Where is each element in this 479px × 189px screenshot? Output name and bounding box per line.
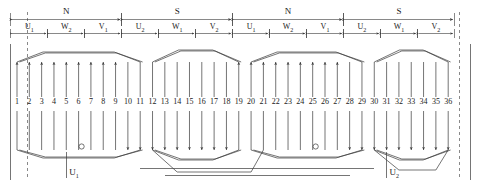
slot-conductor-layer <box>17 62 448 150</box>
slot-number-31: 31 <box>383 98 391 106</box>
phase-return-connector <box>153 150 264 172</box>
slot-number-26: 26 <box>321 98 329 106</box>
slot-number-5: 5 <box>64 98 68 106</box>
phase-band-label-7: U1 <box>247 23 256 33</box>
pole-label-2: S <box>175 7 180 16</box>
slot-number-2: 2 <box>27 98 31 106</box>
slot-number-12: 12 <box>149 98 157 106</box>
coil-overhang-bottom <box>377 150 451 159</box>
pole-label-3: N <box>285 7 292 16</box>
slot-number-25: 25 <box>309 98 317 106</box>
slot-number-4: 4 <box>52 98 56 106</box>
phase-band-label-5: W1 <box>172 23 183 33</box>
slot-number-10: 10 <box>124 98 132 106</box>
slot-number-27: 27 <box>333 98 341 106</box>
slot-number-24: 24 <box>296 98 304 106</box>
coil-overhang-bottom <box>155 150 241 159</box>
slot-number-30: 30 <box>370 98 378 106</box>
slot-number-34: 34 <box>420 98 428 106</box>
slot-number-17: 17 <box>210 98 218 106</box>
slot-number-29: 29 <box>358 98 366 106</box>
slot-number-11: 11 <box>136 98 144 106</box>
slot-number-6: 6 <box>77 98 81 106</box>
phase-band-label-8: W2 <box>283 23 294 33</box>
slot-number-9: 9 <box>114 98 118 106</box>
slot-number-33: 33 <box>407 98 415 106</box>
phase-band-label-4: U2 <box>136 23 145 33</box>
coil-overhang-top <box>17 52 140 62</box>
slot-number-8: 8 <box>101 98 105 106</box>
terminal-label-U1: U1 <box>69 168 79 179</box>
coil-overhang-bottom <box>19 150 142 157</box>
slot-number-23: 23 <box>284 98 292 106</box>
phase-band-label-3: V1 <box>99 23 108 33</box>
core-frame-layer <box>11 12 471 180</box>
slot-number-1: 1 <box>15 98 19 106</box>
junction-left <box>79 144 84 149</box>
slot-number-32: 32 <box>395 98 403 106</box>
slot-number-15: 15 <box>185 98 193 106</box>
dimension-lines-layer <box>11 13 455 38</box>
junction-right <box>313 144 318 149</box>
winding-diagram: NSNSU1W2V1U2W1V2U1W2V1U2W1V2123456789101… <box>0 0 479 189</box>
slot-number-7: 7 <box>89 98 93 106</box>
phase-band-label-6: V2 <box>210 23 219 33</box>
coil-overhang-top <box>377 51 451 62</box>
winding-artwork <box>0 0 479 189</box>
phase-band-label-1: U1 <box>25 23 34 33</box>
slot-number-16: 16 <box>198 98 206 106</box>
slot-number-28: 28 <box>346 98 354 106</box>
slot-number-35: 35 <box>432 98 440 106</box>
pole-label-1: N <box>63 7 70 16</box>
slot-number-20: 20 <box>247 98 255 106</box>
slot-number-21: 21 <box>259 98 267 106</box>
phase-band-label-11: W1 <box>394 23 405 33</box>
slot-number-22: 22 <box>272 98 280 106</box>
slot-number-14: 14 <box>173 98 181 106</box>
slot-number-18: 18 <box>222 98 230 106</box>
phase-band-label-12: V2 <box>431 23 440 33</box>
slot-number-13: 13 <box>161 98 169 106</box>
terminal-label-U2: U2 <box>390 168 400 179</box>
pole-label-4: S <box>396 7 401 16</box>
slot-number-36: 36 <box>444 98 452 106</box>
junction-node-layer <box>79 144 318 149</box>
coil-overhang-top <box>153 50 239 62</box>
coil-overhang-top <box>155 51 241 62</box>
phase-band-label-9: V1 <box>321 23 330 33</box>
phase-band-label-10: U2 <box>358 23 367 33</box>
phase-band-label-2: W2 <box>61 23 72 33</box>
slot-number-3: 3 <box>40 98 44 106</box>
slot-number-19: 19 <box>235 98 243 106</box>
